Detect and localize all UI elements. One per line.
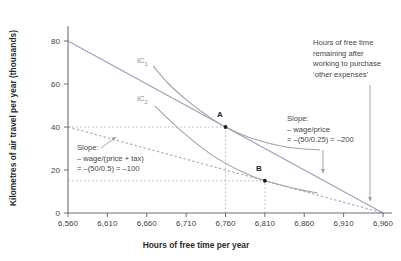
annotation-line: = –(50/0.5) = –100 <box>77 164 144 175</box>
annotation-line: remaining after <box>313 49 401 60</box>
x-tick-label: 6,960 <box>373 219 394 228</box>
point-b-marker <box>263 179 267 183</box>
free-time-arrow-head <box>368 197 372 201</box>
ic1-label-sub: 1 <box>145 61 148 67</box>
x-tick-label: 6,710 <box>176 219 197 228</box>
slope-100-arrow-head <box>112 137 116 141</box>
point-a-marker <box>224 125 228 129</box>
x-tick-label: 6,560 <box>58 219 79 228</box>
x-tick-label: 6,910 <box>334 219 355 228</box>
ic1-label-text: IC <box>137 56 145 65</box>
ic1-label: IC1 <box>137 56 148 67</box>
x-tick-label: 6,760 <box>215 219 236 228</box>
annotation-slope-wage-price: Slope: – wage/price = –(50/0.25) = –200 <box>287 114 354 146</box>
point-b-label: B <box>256 164 262 173</box>
x-tick-label: 6,810 <box>255 219 276 228</box>
annotation-line: – wage/price <box>287 125 354 136</box>
x-tick-label: 6,660 <box>137 219 158 228</box>
slope-200-arrow-head <box>321 169 325 173</box>
x-tick-label: 6,610 <box>97 219 118 228</box>
ic2-label: IC2 <box>137 94 148 105</box>
indifference-curve-figure: 0204060806,5606,6106,6606,7106,7606,8106… <box>0 0 401 261</box>
annotation-slope-wage-price-tax: Slope: – wage/(price + tax) = –(50/0.5) … <box>77 143 144 175</box>
annotation-line: = –(50/0.25) = –200 <box>287 135 354 146</box>
y-axis-title: Kilometres of air travel per year (thous… <box>8 8 18 228</box>
point-a-label: A <box>217 110 223 119</box>
annotation-line: – wage/(price + tax) <box>77 154 144 165</box>
x-axis-title: Hours of free time per year <box>0 240 392 250</box>
annotation-line: Slope: <box>287 114 354 125</box>
y-tick-label: 0 <box>56 209 61 218</box>
y-tick-label: 80 <box>51 37 60 46</box>
y-tick-label: 20 <box>51 166 60 175</box>
annotation-line: Slope: <box>77 143 144 154</box>
y-tick-label: 60 <box>51 80 60 89</box>
annotation-line: working to purchase <box>313 59 401 70</box>
ic2-label-text: IC <box>137 94 145 103</box>
y-tick-label: 40 <box>51 123 60 132</box>
annotation-line: Hours of free time <box>313 38 401 49</box>
annotation-free-time: Hours of free time remaining after worki… <box>313 38 401 80</box>
x-tick-label: 6,860 <box>294 219 315 228</box>
ic2-label-sub: 2 <box>145 99 148 105</box>
annotation-line: ‘other expenses’ <box>313 70 401 81</box>
